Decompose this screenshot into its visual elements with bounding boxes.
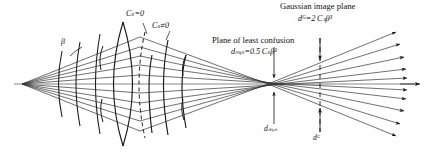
arc-fragment-bottom-1 bbox=[101, 99, 103, 122]
ray-lower-2 bbox=[22, 44, 400, 121]
label-cs-nonzero-text: Cₛ≠0 bbox=[152, 21, 169, 30]
label-d-gauss-formula: dᴳ=2 Cₛβ³ bbox=[298, 15, 332, 24]
label-d-min-formula: dₘᵢₙ=0.5 Cₛβ³ bbox=[231, 48, 277, 57]
label-d-gauss-formula-text: dᴳ=2 Cₛβ³ bbox=[298, 14, 332, 23]
ray-diagram-svg bbox=[0, 0, 435, 159]
label-gaussian-image-plane-text: Gaussian image plane bbox=[280, 1, 355, 11]
label-d-gauss-marker: dᴳ bbox=[313, 134, 320, 142]
label-d-min-formula-text: dₘᵢₙ=0.5 Cₛβ³ bbox=[231, 47, 277, 56]
label-cs-zero: Cₛ=0 bbox=[126, 10, 144, 19]
ray-lower-3 bbox=[22, 57, 404, 112]
label-d-min-marker: dₘᵢₙ bbox=[264, 125, 277, 133]
label-d-gauss-marker-text: dᴳ bbox=[313, 133, 320, 142]
label-plane-of-least-confusion: Plane of least confusion bbox=[212, 36, 294, 45]
ray-upper-5 bbox=[22, 75, 407, 90]
ray-upper-3 bbox=[22, 56, 404, 111]
label-d-min-marker-text: dₘᵢₙ bbox=[264, 124, 277, 133]
ray-upper-2 bbox=[22, 47, 400, 124]
figure-canvas: Cₛ=0 Cₛ≠0 β Gaussian image plane dᴳ=2 Cₛ… bbox=[0, 0, 435, 159]
label-plane-of-least-confusion-text: Plane of least confusion bbox=[212, 35, 294, 45]
beta-angle-mark bbox=[70, 47, 82, 56]
label-beta-text: β bbox=[61, 37, 65, 46]
label-gaussian-image-plane: Gaussian image plane bbox=[280, 2, 355, 11]
label-beta: β bbox=[61, 38, 65, 46]
leader-cs-nonzero bbox=[166, 31, 170, 40]
label-cs-zero-text: Cₛ=0 bbox=[126, 9, 144, 18]
ray-lower-5 bbox=[22, 78, 407, 93]
beta-arc bbox=[70, 47, 82, 56]
label-cs-nonzero: Cₛ≠0 bbox=[152, 22, 169, 31]
arc-fragment-top-1 bbox=[100, 46, 103, 70]
